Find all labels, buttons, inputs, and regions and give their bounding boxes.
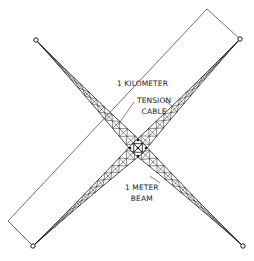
length-label: 1 KILOMETER: [117, 78, 168, 89]
hub-joint: [137, 139, 140, 142]
truss-arms: [33, 39, 243, 246]
tension-cable-label-line1: TENSION: [137, 95, 171, 106]
end-node: [31, 244, 35, 248]
beam-label-line2: BEAM: [125, 193, 159, 204]
tensegrity-cross-diagram: [0, 0, 254, 261]
hub-joint: [145, 147, 148, 150]
hub-joint: [129, 147, 132, 150]
beam-label-line1: 1 METER: [125, 182, 159, 193]
end-node: [34, 38, 38, 42]
end-node: [238, 37, 242, 41]
hub-joint: [137, 147, 140, 150]
hub-joint: [137, 155, 140, 158]
tension-cable-label: TENSION CABLE: [137, 95, 171, 117]
tension-cable-label-line2: CABLE: [137, 106, 171, 117]
end-node: [241, 244, 245, 248]
beam-label: 1 METER BEAM: [125, 182, 159, 204]
